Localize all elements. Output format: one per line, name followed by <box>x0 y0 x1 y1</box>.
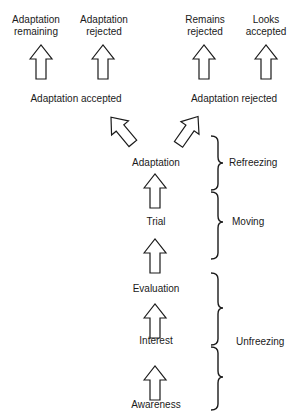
result-label-line1: Looks <box>246 14 287 26</box>
phase-unfreezing: Unfreezing <box>236 336 284 348</box>
arrow-up-icon <box>30 45 52 79</box>
outcome-adaptation-accepted: Adaptation accepted <box>30 93 121 105</box>
arrow-up-icon <box>92 45 114 79</box>
result-remains-rejected: Remains rejected <box>185 14 224 38</box>
result-label-line1: Remains <box>185 14 224 26</box>
stage-evaluation: Evaluation <box>133 283 180 295</box>
arrow-up-icon <box>144 366 166 400</box>
result-adaptation-rejected: Adaptation rejected <box>80 14 128 38</box>
result-looks-accepted: Looks accepted <box>246 14 287 38</box>
arrow-up-icon <box>255 45 277 79</box>
brace-unfreezing-upper-icon <box>211 273 223 345</box>
arrow-up-right-icon <box>170 110 208 150</box>
result-adaptation-remaining: Adaptation remaining <box>12 14 60 38</box>
brace-refreezing-icon <box>211 136 223 190</box>
result-label-line2: rejected <box>185 26 224 38</box>
brace-unfreezing-lower-icon <box>211 347 223 410</box>
result-label-line2: remaining <box>12 26 60 38</box>
stage-awareness: Awareness <box>131 399 180 411</box>
arrow-up-icon <box>193 45 215 79</box>
arrow-up-left-icon <box>103 110 142 150</box>
arrow-up-icon <box>144 239 166 273</box>
phase-moving: Moving <box>232 216 264 228</box>
arrow-up-icon <box>144 174 166 208</box>
result-label-line1: Adaptation <box>12 14 60 26</box>
phase-refreezing: Refreezing <box>229 157 277 169</box>
stage-trial: Trial <box>146 216 165 228</box>
stage-adaptation: Adaptation <box>132 157 180 169</box>
brace-moving-icon <box>211 192 223 259</box>
outcome-adaptation-rejected: Adaptation rejected <box>191 93 277 105</box>
result-label-line2: accepted <box>246 26 287 38</box>
result-label-line2: rejected <box>80 26 128 38</box>
arrow-up-icon <box>144 304 166 338</box>
diagram-canvas <box>0 0 295 417</box>
result-label-line1: Adaptation <box>80 14 128 26</box>
stage-interest: Interest <box>139 335 172 347</box>
